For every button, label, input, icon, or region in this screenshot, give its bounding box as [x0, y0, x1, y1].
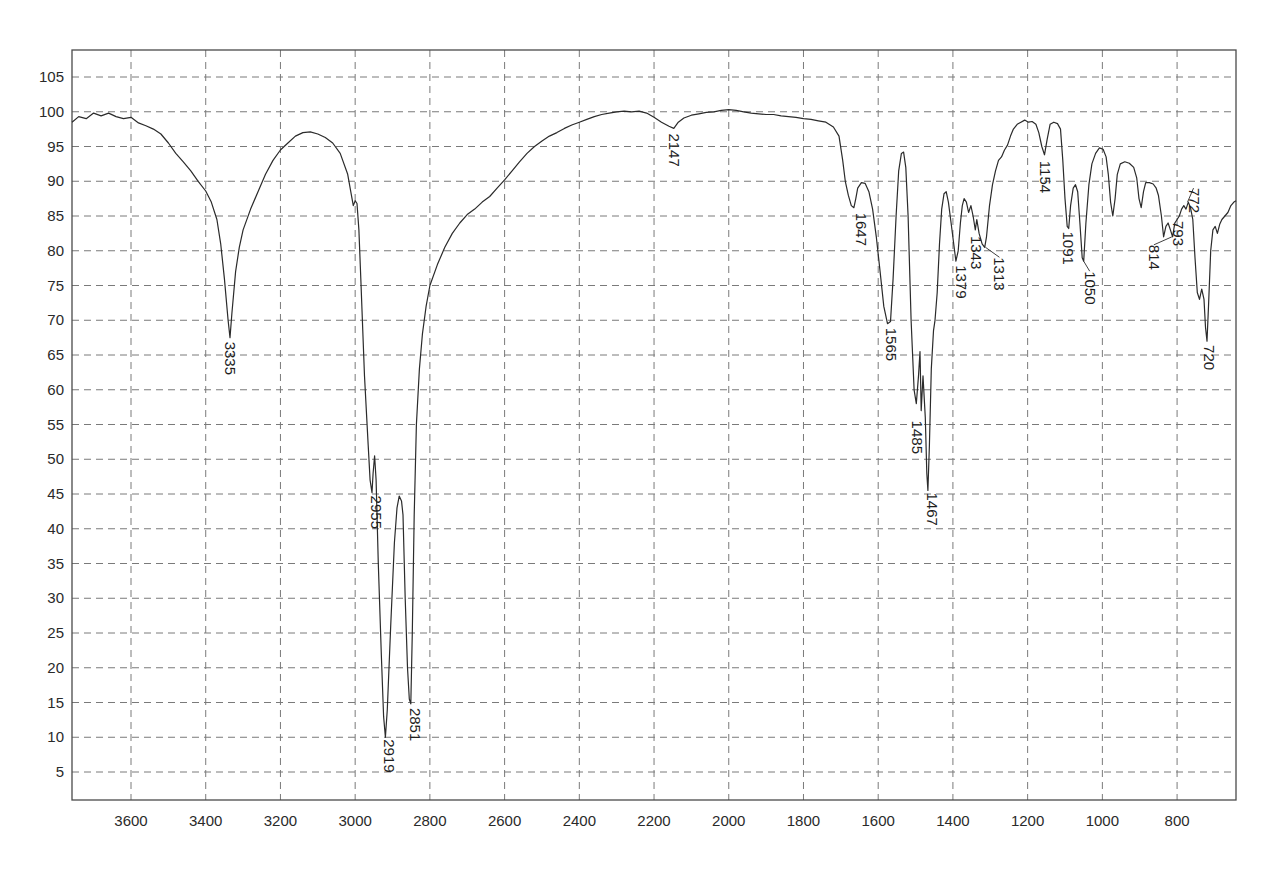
y-tick-label: 85: [47, 207, 64, 224]
peak-label-1379: 1379: [953, 265, 970, 298]
y-tick-label: 90: [47, 172, 64, 189]
y-tick-label: 60: [47, 381, 64, 398]
y-tick-label: 50: [47, 450, 64, 467]
peak-label-1647: 1647: [853, 213, 870, 246]
peak-label-1485: 1485: [909, 421, 926, 454]
peak-label-1091: 1091: [1060, 232, 1077, 265]
peak-label-793: 793: [1170, 221, 1187, 246]
peak-label-1343: 1343: [968, 236, 985, 269]
x-tick-label: 1400: [936, 812, 969, 829]
y-tick-label: 25: [47, 624, 64, 641]
y-tick-label: 45: [47, 485, 64, 502]
peak-label-814: 814: [1146, 245, 1163, 270]
y-tick-label: 5: [56, 763, 64, 780]
x-tick-label: 2000: [712, 812, 745, 829]
y-tick-label: 30: [47, 589, 64, 606]
peak-label-1467: 1467: [924, 493, 941, 526]
y-tick-label: 65: [47, 346, 64, 363]
x-tick-label: 2800: [413, 812, 446, 829]
x-tick-label: 2600: [488, 812, 521, 829]
x-tick-label: 2400: [563, 812, 596, 829]
peak-label-2851: 2851: [407, 708, 424, 741]
x-tick-label: 1200: [1011, 812, 1044, 829]
peak-label-1313: 1313: [991, 257, 1008, 290]
peak-label-3335: 3335: [222, 342, 239, 375]
peak-leader-line: [985, 247, 999, 257]
peak-labels: 3335295529192851214716471565148514671379…: [222, 133, 1218, 772]
ir-spectrum-chart: 5101520253035404550556065707580859095100…: [0, 0, 1282, 871]
peak-label-772: 772: [1186, 188, 1203, 213]
y-tick-label: 40: [47, 520, 64, 537]
peak-label-1050: 1050: [1082, 271, 1099, 304]
x-tick-label: 3000: [338, 812, 371, 829]
peak-leader-line: [1084, 261, 1090, 271]
y-tick-label: 80: [47, 242, 64, 259]
peak-label-720: 720: [1201, 345, 1218, 370]
y-axis-tick-labels: 5101520253035404550556065707580859095100…: [39, 68, 64, 780]
peak-label-2955: 2955: [368, 496, 385, 529]
x-axis-tick-labels: 3600340032003000280026002400220020001800…: [114, 812, 1189, 829]
x-tick-label: 3200: [264, 812, 297, 829]
x-tick-label: 1000: [1086, 812, 1119, 829]
y-tick-label: 55: [47, 416, 64, 433]
y-tick-label: 75: [47, 277, 64, 294]
y-tick-label: 105: [39, 68, 64, 85]
y-tick-label: 100: [39, 103, 64, 120]
y-tick-label: 10: [47, 728, 64, 745]
x-tick-label: 2200: [637, 812, 670, 829]
peak-leader-line: [1154, 237, 1172, 245]
x-tick-label: 1600: [862, 812, 895, 829]
y-tick-label: 15: [47, 694, 64, 711]
peak-label-2147: 2147: [666, 133, 683, 166]
y-tick-label: 20: [47, 659, 64, 676]
x-tick-label: 1800: [787, 812, 820, 829]
x-tick-label: 800: [1165, 812, 1190, 829]
peak-label-1565: 1565: [883, 328, 900, 361]
peak-label-1154: 1154: [1037, 161, 1054, 193]
x-tick-label: 3400: [189, 812, 222, 829]
peak-label-2919: 2919: [381, 739, 398, 772]
y-tick-label: 70: [47, 311, 64, 328]
x-tick-label: 3600: [114, 812, 147, 829]
y-tick-label: 95: [47, 138, 64, 155]
y-tick-label: 35: [47, 555, 64, 572]
